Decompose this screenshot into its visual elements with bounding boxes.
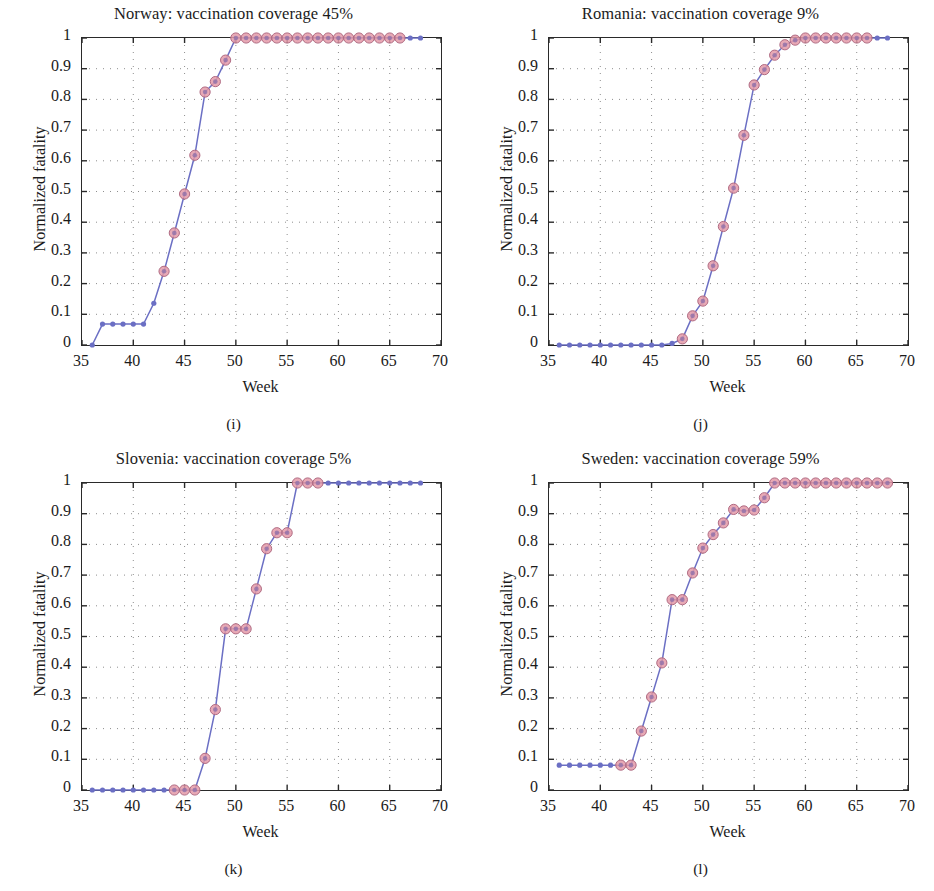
data-point-dot	[639, 342, 644, 347]
data-point-dot	[629, 763, 634, 768]
data-point-dot	[598, 342, 603, 347]
data-point-dot	[203, 756, 208, 761]
x-tick-label: 55	[728, 797, 778, 815]
y-tick-label: 0.6	[486, 149, 538, 167]
data-point-dot	[161, 787, 166, 792]
data-point-dot	[203, 90, 208, 95]
panel-caption: (j)	[467, 415, 934, 433]
x-axis-label: Week	[81, 823, 440, 841]
y-tick-label: 0.3	[19, 686, 71, 704]
data-point-dot	[182, 192, 187, 197]
y-tick-label: 0	[19, 333, 71, 351]
data-point-dot	[721, 224, 726, 229]
y-tick-label: 0.2	[19, 272, 71, 290]
x-tick-label: 50	[677, 352, 727, 370]
data-point-dot	[711, 532, 716, 537]
data-point-dot	[346, 36, 351, 41]
data-point-dot	[131, 787, 136, 792]
y-tick-label: 1	[486, 471, 538, 489]
x-tick-label: 60	[312, 797, 362, 815]
y-tick-label: 0	[19, 778, 71, 796]
x-tick-label: 65	[364, 352, 414, 370]
data-point-dot	[813, 36, 818, 41]
data-point-dot	[844, 481, 849, 486]
data-point-dot	[742, 509, 747, 514]
chart-panel-norway: Norway: vaccination coverage 45%Normaliz…	[0, 0, 467, 445]
data-point-dot	[275, 36, 280, 41]
data-point-dot	[680, 337, 685, 342]
x-tick-label: 55	[261, 352, 311, 370]
data-point-dot	[813, 481, 818, 486]
plot-canvas	[549, 38, 908, 345]
chart-title: Romania: vaccination coverage 9%	[467, 4, 934, 24]
data-point-dot	[690, 571, 695, 576]
data-point-dot	[387, 36, 392, 41]
y-tick-label: 0.2	[19, 717, 71, 735]
data-point-dot	[131, 322, 136, 327]
data-point-dot	[244, 36, 249, 41]
panel-caption: (i)	[0, 415, 467, 433]
x-tick-label: 55	[261, 797, 311, 815]
x-tick-label: 45	[159, 352, 209, 370]
data-point-dot	[762, 495, 767, 500]
data-point-dot	[742, 133, 747, 138]
chart-panel-romania: Romania: vaccination coverage 9%Normaliz…	[467, 0, 934, 445]
y-tick-label: 0.5	[486, 625, 538, 643]
data-point-dot	[865, 481, 870, 486]
data-point-dot	[660, 661, 665, 666]
data-point-dot	[397, 480, 402, 485]
x-tick-label: 65	[364, 797, 414, 815]
y-tick-label: 0.1	[19, 302, 71, 320]
data-point-dot	[408, 35, 413, 40]
y-tick-label: 0.2	[486, 272, 538, 290]
data-point-dot	[803, 481, 808, 486]
data-point-dot	[680, 597, 685, 602]
data-point-dot	[367, 480, 372, 485]
data-point-dot	[172, 788, 177, 793]
y-tick-label: 0.5	[19, 625, 71, 643]
y-tick-label: 1	[19, 471, 71, 489]
x-tick-label: 60	[312, 352, 362, 370]
chart-title: Sweden: vaccination coverage 59%	[467, 449, 934, 469]
data-point-dot	[701, 546, 706, 551]
data-point-dot	[762, 67, 767, 72]
panel-caption: (k)	[0, 860, 467, 878]
data-point-dot	[285, 530, 290, 535]
data-point-dot	[783, 481, 788, 486]
data-point-dot	[182, 788, 187, 793]
data-point-dot	[254, 36, 259, 41]
data-point-dot	[649, 695, 654, 700]
data-point-dot	[721, 521, 726, 526]
x-tick-label: 35	[523, 352, 573, 370]
data-point-dot	[854, 481, 859, 486]
data-point-dot	[649, 342, 654, 347]
data-line	[92, 38, 420, 345]
data-point-dot	[100, 322, 105, 327]
x-tick-label: 65	[831, 797, 881, 815]
data-point-dot	[356, 480, 361, 485]
x-axis-label: Week	[548, 378, 907, 396]
x-tick-label: 70	[415, 797, 465, 815]
figure-grid: Norway: vaccination coverage 45%Normaliz…	[0, 0, 934, 891]
data-point-dot	[619, 763, 624, 768]
data-point-dot	[264, 36, 269, 41]
data-point-dot	[264, 546, 269, 551]
data-point-dot	[336, 480, 341, 485]
data-point-dot	[690, 314, 695, 319]
data-point-dot	[628, 342, 633, 347]
axis-ticks	[549, 38, 908, 345]
y-tick-label: 0.7	[19, 563, 71, 581]
y-tick-label: 0.3	[19, 241, 71, 259]
x-tick-label: 60	[779, 352, 829, 370]
data-point-dot	[885, 35, 890, 40]
axis-ticks	[82, 38, 441, 345]
data-point-dot	[377, 480, 382, 485]
data-point-dot	[326, 36, 331, 41]
data-point-dot	[875, 481, 880, 486]
data-markers	[557, 33, 890, 348]
y-tick-label: 0.8	[19, 532, 71, 550]
y-tick-label: 0.1	[486, 747, 538, 765]
data-point-dot	[670, 597, 675, 602]
y-tick-label: 0.8	[486, 532, 538, 550]
data-point-dot	[577, 342, 582, 347]
